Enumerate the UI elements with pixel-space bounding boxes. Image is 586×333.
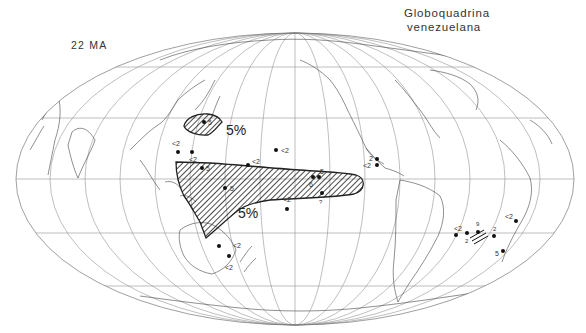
svg-text:5: 5 (230, 185, 234, 192)
svg-text:9: 9 (476, 221, 480, 227)
svg-text:<2: <2 (172, 140, 180, 147)
north-pacific-patch (184, 114, 222, 135)
site: <2 (505, 213, 518, 223)
svg-text:2: 2 (493, 226, 497, 232)
svg-text:<2: <2 (233, 242, 241, 249)
site: <2 (246, 158, 260, 167)
site: 2 (492, 226, 497, 238)
svg-text:<2: <2 (505, 213, 513, 220)
svg-text:2: 2 (465, 238, 469, 244)
svg-text:<2: <2 (363, 162, 371, 169)
svg-text:5: 5 (206, 165, 210, 172)
svg-text:<2: <2 (283, 196, 291, 203)
equatorial-pacific-belt (176, 162, 363, 238)
site: 2 (465, 231, 469, 244)
site: <2 (217, 242, 241, 249)
svg-text:5: 5 (495, 250, 499, 257)
age-label: 22 MA (71, 39, 107, 51)
genus-name: Globoquadrina (404, 6, 490, 20)
contour-label-equatorial: 5% (238, 205, 258, 221)
species-name: venezuelana (404, 20, 490, 34)
svg-text:?: ? (319, 199, 323, 205)
site: <2 (283, 196, 291, 211)
site: <2 (363, 162, 379, 169)
distribution-zones (176, 114, 363, 238)
svg-text:5: 5 (208, 119, 212, 126)
contour-label-north: 5% (226, 122, 246, 138)
site: <2 (454, 225, 462, 237)
svg-text:<2: <2 (189, 156, 197, 163)
svg-text:<2: <2 (252, 158, 260, 165)
site: <2 (274, 147, 289, 154)
svg-text:<2: <2 (225, 264, 233, 271)
svg-text:2: 2 (369, 155, 373, 162)
svg-text:<2: <2 (454, 225, 462, 232)
svg-text:<2: <2 (281, 147, 289, 154)
species-title: Globoquadrina venezuelana (404, 6, 490, 34)
svg-text:6: 6 (309, 181, 313, 188)
svg-text:5: 5 (320, 168, 324, 175)
site: <2 (189, 150, 197, 163)
site: <2 (172, 140, 180, 154)
